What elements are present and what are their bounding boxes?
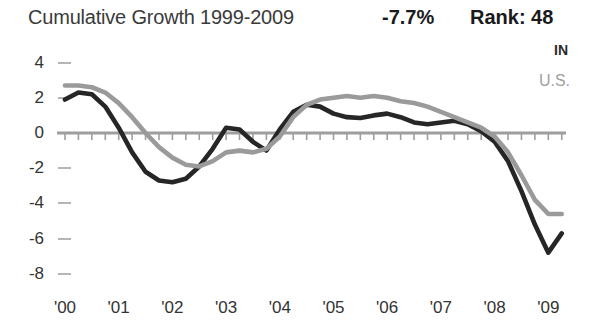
- series-line-in: [65, 93, 562, 253]
- chart-plot-area: 420-2-4-6-8 '00'01'02'03'04'05'06'07'08'…: [0, 0, 592, 333]
- series-lines: [0, 0, 592, 333]
- chart-screenshot: Cumulative Growth 1999-2009 -7.7% Rank: …: [0, 0, 592, 333]
